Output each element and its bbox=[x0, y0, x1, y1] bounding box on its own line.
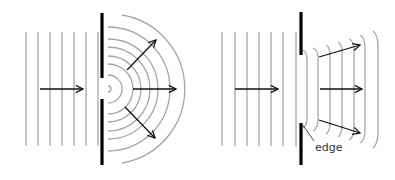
diffraction-diagram: edge bbox=[0, 0, 395, 180]
right-panel-wide-gap: edge bbox=[222, 12, 378, 165]
edge-label: edge bbox=[315, 141, 343, 154]
left-panel-narrow-gap bbox=[26, 13, 185, 165]
diffracted-arrows-right bbox=[319, 45, 362, 133]
edge-leader-line bbox=[302, 124, 314, 141]
arrow-down-right bbox=[125, 107, 155, 138]
